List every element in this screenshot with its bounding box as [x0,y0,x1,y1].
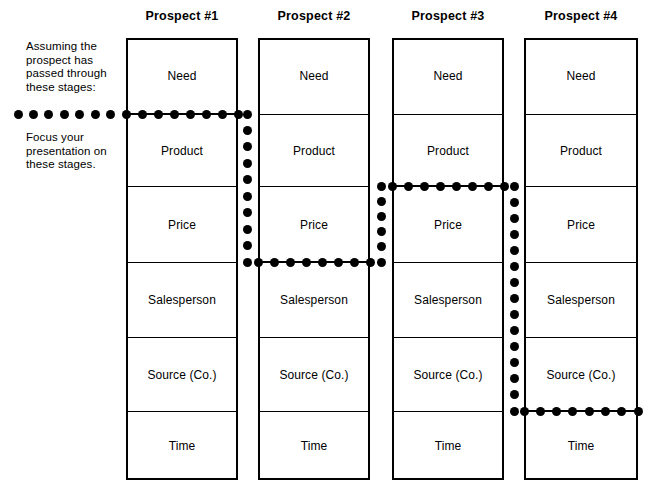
stage-cell-1-5[interactable]: Source (Co.) [128,337,236,411]
prospect-column-1[interactable]: NeedProductPriceSalespersonSource (Co.)T… [126,38,238,480]
leader-dot [91,110,100,119]
stage-cell-label: Source (Co.) [546,368,615,382]
stage-cell-4-3[interactable]: Price [526,186,636,262]
stage-cell-label: Need [167,69,196,83]
boundary-1-dot [154,110,163,119]
bridge-2-dot [377,227,386,236]
column-title-1: Prospect #1 [126,9,238,23]
bridge-2-dot [377,212,386,221]
stage-cell-4-4[interactable]: Salesperson [526,262,636,337]
stage-cell-label: Product [560,144,602,158]
stage-cell-label: Need [299,69,328,83]
leader-dot [44,110,53,119]
stage-cell-4-2[interactable]: Product [526,114,636,186]
boundary-4-dot [520,407,529,416]
bridge-3-dot [510,198,519,207]
boundary-4-dot [634,407,643,416]
bridge-3-dot [510,326,519,335]
leader-dot [29,110,38,119]
boundary-4-dot [585,407,594,416]
column-title-2: Prospect #2 [258,9,370,23]
boundary-3-dot [468,182,477,191]
boundary-3-dot [420,182,429,191]
stage-cell-1-1[interactable]: Need [128,38,236,114]
stage-cell-label: Product [293,144,335,158]
bridge-1-dot [243,225,252,234]
stage-cell-1-4[interactable]: Salesperson [128,262,236,337]
stage-cell-3-4[interactable]: Salesperson [394,262,502,337]
bridge-3-dot [510,230,519,239]
bridge-1-dot [243,175,252,184]
bridge-2-dot [377,182,386,191]
stage-cell-2-1[interactable]: Need [260,38,368,114]
stage-cell-label: Source (Co.) [147,368,216,382]
bridge-3-dot [510,278,519,287]
boundary-1-dot [122,110,131,119]
boundary-4-dot [536,407,545,416]
stage-cell-label: Salesperson [414,293,482,307]
boundary-4-dot [552,407,561,416]
bridge-3-dot [510,246,519,255]
leader-dot [14,110,23,119]
bridge-3-dot [510,214,519,223]
boundary-1-dot [202,110,211,119]
stage-cell-2-2[interactable]: Product [260,114,368,186]
stage-cell-label: Price [300,218,328,232]
stage-cell-3-5[interactable]: Source (Co.) [394,337,502,411]
annotation-focus-presentation: Focus your presentation on these stages. [26,131,122,172]
boundary-3-dot [436,182,445,191]
stage-cell-label: Source (Co.) [279,368,348,382]
bridge-1-dot [243,159,252,168]
boundary-3-dot [404,182,413,191]
stage-cell-4-5[interactable]: Source (Co.) [526,337,636,411]
funnel-diagram: Assuming the prospect has passed through… [0,0,657,500]
stage-cell-3-1[interactable]: Need [394,38,502,114]
boundary-3-dot [484,182,493,191]
stage-cell-label: Price [567,218,595,232]
stage-cell-3-6[interactable]: Time [394,411,502,480]
bridge-3-dot [510,374,519,383]
stage-cell-label: Salesperson [148,293,216,307]
leader-dot [106,110,115,119]
bridge-3-dot [510,358,519,367]
boundary-2-dot [366,258,375,267]
bridge-1-dot [243,208,252,217]
boundary-2-dot [254,258,263,267]
bridge-3-dot [510,294,519,303]
stage-cell-label: Need [433,69,462,83]
stage-cell-1-6[interactable]: Time [128,411,236,480]
bridge-1-dot [243,126,252,135]
stage-cell-1-2[interactable]: Product [128,114,236,186]
boundary-4-dot [568,407,577,416]
stage-cell-label: Salesperson [280,293,348,307]
boundary-2-dot [318,258,327,267]
boundary-1-dot [186,110,195,119]
stage-cell-label: Source (Co.) [413,368,482,382]
bridge-3-dot [510,407,519,416]
prospect-column-3[interactable]: NeedProductPriceSalespersonSource (Co.)T… [392,38,504,480]
stage-cell-2-5[interactable]: Source (Co.) [260,337,368,411]
bridge-1-dot [243,142,252,151]
bridge-1-dot [243,241,252,250]
stage-cell-label: Salesperson [547,293,615,307]
boundary-4-dot [601,407,610,416]
boundary-3-dot [500,182,509,191]
stage-cell-3-3[interactable]: Price [394,186,502,262]
bridge-1-dot [243,110,252,119]
stage-cell-4-6[interactable]: Time [526,411,636,480]
leader-dot [75,110,84,119]
stage-cell-3-2[interactable]: Product [394,114,502,186]
stage-cell-2-3[interactable]: Price [260,186,368,262]
stage-cell-4-1[interactable]: Need [526,38,636,114]
stage-cell-1-3[interactable]: Price [128,186,236,262]
annotation-assuming-passed-through: Assuming the prospect has passed through… [26,40,122,94]
bridge-3-dot [510,342,519,351]
boundary-2-dot [286,258,295,267]
bridge-3-dot [510,310,519,319]
stage-cell-2-4[interactable]: Salesperson [260,262,368,337]
boundary-2-dot [270,258,279,267]
boundary-1-dot [234,110,243,119]
stage-cell-label: Time [301,439,328,453]
stage-cell-label: Time [169,439,196,453]
stage-cell-2-6[interactable]: Time [260,411,368,480]
